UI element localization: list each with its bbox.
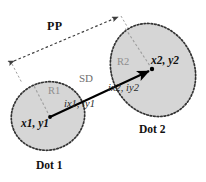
dot-2-label: Dot 2	[139, 124, 166, 136]
center-2-point	[150, 67, 154, 71]
diagram-svg	[0, 0, 206, 182]
intersect-2-label: ix2, iy2	[108, 83, 139, 94]
center-2-label: x2, y2	[151, 55, 179, 67]
r1-label: R1	[48, 86, 60, 97]
center-1-label: x1, y1	[21, 118, 49, 130]
r2-label: R2	[117, 57, 129, 68]
intersect-1-label: ix1, iy1	[64, 99, 95, 110]
pp-arrow-line	[14, 17, 118, 61]
sd-label: SD	[79, 73, 93, 84]
pp-label: PP	[47, 20, 62, 32]
dot-1-label: Dot 1	[36, 160, 63, 172]
diagram-canvas: PP SD R1 R2 x1, y1 x2, y2 ix1, iy1 ix2, …	[0, 0, 206, 182]
pp-tick-right	[121, 16, 128, 28]
pp-tick-left	[12, 64, 22, 83]
